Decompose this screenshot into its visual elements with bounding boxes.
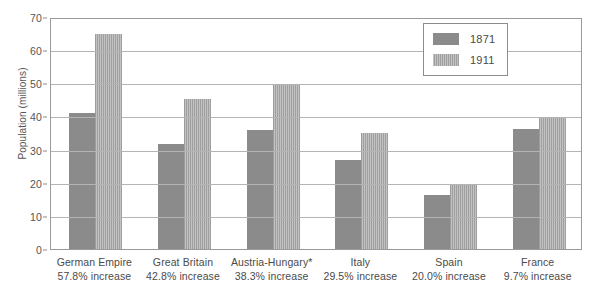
y-tick-label-50: 50 [30, 78, 42, 90]
y-tick-mark-70 [43, 18, 47, 19]
bar-1871 [513, 129, 540, 249]
y-tick-mark-60 [43, 51, 47, 52]
legend-item-1911: 1911 [433, 52, 495, 68]
series-1871-swatch [433, 33, 459, 45]
y-tick-label-70: 70 [30, 12, 42, 24]
bar-1871 [69, 113, 96, 249]
bar-group [335, 19, 387, 249]
series-1911-swatch [433, 54, 459, 66]
gridline-50 [51, 84, 581, 85]
x-category-name: France [481, 255, 594, 269]
gridline-10 [51, 217, 581, 218]
x-axis-group-label: France9.7% increase [481, 255, 594, 283]
y-tick-label-10: 10 [30, 211, 42, 223]
gridline-20 [51, 184, 581, 185]
y-tick-mark-0 [43, 250, 47, 251]
x-axis-labels: German Empire57.8% increaseGreat Britain… [50, 255, 582, 295]
y-tick-mark-40 [43, 117, 47, 118]
y-tick-label-40: 40 [30, 111, 42, 123]
gridline-40 [51, 117, 581, 118]
y-axis-ticks: 010203040506070 [12, 18, 46, 250]
y-tick-mark-10 [43, 216, 47, 217]
bar-group [158, 19, 210, 249]
legend-label-1911: 1911 [470, 54, 494, 66]
y-tick-mark-50 [43, 84, 47, 85]
population-bar-chart: Population (millions) 010203040506070 18… [0, 0, 600, 307]
x-category-increase: 9.7% increase [481, 269, 594, 283]
bar-1871 [335, 160, 362, 249]
bar-group [247, 19, 299, 249]
legend-label-1871: 1871 [470, 33, 495, 45]
y-tick-mark-30 [43, 150, 47, 151]
bar-group [69, 19, 121, 249]
y-tick-mark-20 [43, 183, 47, 184]
bar-1911 [184, 99, 211, 249]
y-tick-label-30: 30 [30, 145, 42, 157]
legend-item-1871: 1871 [433, 31, 495, 47]
bar-group [513, 19, 565, 249]
bar-1911 [273, 85, 300, 249]
bar-1871 [247, 130, 274, 249]
bar-1871 [424, 195, 451, 249]
y-tick-label-20: 20 [30, 178, 42, 190]
chart-legend: 18711911 [423, 23, 508, 76]
y-tick-label-60: 60 [30, 45, 42, 57]
gridline-30 [51, 151, 581, 152]
bar-1871 [158, 144, 185, 249]
